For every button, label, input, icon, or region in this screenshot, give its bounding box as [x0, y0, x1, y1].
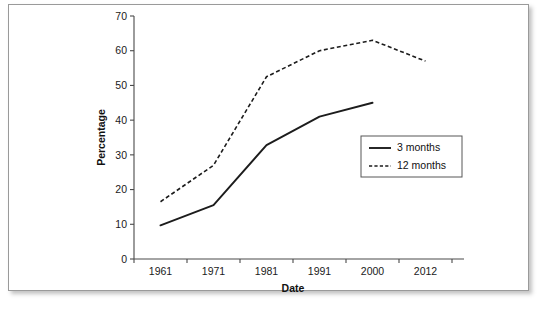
y-axis-ticks: 010203040506070 [115, 10, 134, 265]
legend-label: 3 months [397, 141, 440, 153]
x-axis-tick-label: 1981 [255, 265, 279, 277]
x-axis-tick-label: 2012 [414, 265, 438, 277]
x-axis: 196119711981199120002012 [134, 259, 464, 277]
y-axis-tick-label: 60 [115, 44, 127, 56]
series-line-12-months [161, 40, 426, 201]
y-axis-tick-label: 50 [115, 79, 127, 91]
data-series-group [161, 40, 426, 225]
y-axis: 010203040506070 [115, 10, 134, 265]
line-chart: 010203040506070 196119711981199120002012… [9, 5, 530, 292]
legend-label: 12 months [397, 159, 446, 171]
figure-frame: 010203040506070 196119711981199120002012… [8, 4, 529, 291]
y-axis-tick-label: 0 [121, 253, 127, 265]
x-axis-tick-labels: 196119711981199120002012 [149, 265, 438, 277]
x-axis-tick-label: 1961 [149, 265, 173, 277]
y-axis-tick-label: 40 [115, 114, 127, 126]
x-axis-tick-label: 2000 [361, 265, 385, 277]
x-axis-ticks [134, 259, 452, 263]
y-axis-tick-label: 70 [115, 10, 127, 22]
y-axis-title: Percentage [95, 109, 107, 166]
y-axis-tick-label: 20 [115, 183, 127, 195]
y-axis-tick-label: 30 [115, 149, 127, 161]
chart-legend: 3 months12 months [361, 136, 462, 177]
y-axis-tick-label: 10 [115, 218, 127, 230]
x-axis-title: Date [282, 282, 305, 292]
x-axis-tick-label: 1971 [202, 265, 226, 277]
x-axis-tick-label: 1991 [308, 265, 332, 277]
series-line-3-months [161, 103, 373, 226]
chart-canvas: 010203040506070 196119711981199120002012… [9, 5, 530, 292]
